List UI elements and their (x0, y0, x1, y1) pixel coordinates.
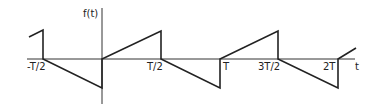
tick-label-three-half-t: 3T/2 (258, 61, 280, 72)
tick-label-t: T (222, 61, 230, 72)
x-axis-label: t (355, 61, 359, 72)
y-axis-label: f(t) (83, 8, 98, 19)
tick-label-2t: 2T (323, 61, 336, 72)
tick-label-neg-half-t: -T/2 (27, 61, 46, 72)
tick-label-half-t: T/2 (146, 61, 163, 72)
sawtooth-diagram: f(t) t -T/2 T/2 T 3T/2 2T (0, 0, 373, 109)
